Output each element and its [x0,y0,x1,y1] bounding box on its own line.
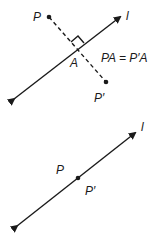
label-p-prime-bottom: P′ [85,184,96,198]
line-l-bottom [17,133,135,226]
label-l-top: l [126,9,129,23]
perpendicular-segment [49,17,106,82]
point-p-on-line [76,176,81,181]
right-angle-marker [71,36,84,43]
equation-label: PA = P′A [101,51,148,65]
point-p-top [47,15,52,20]
label-l-bottom: l [141,120,144,134]
label-p-top: P [33,10,41,24]
figure-bottom: P l P′ [17,120,144,226]
label-a: A [69,56,78,70]
label-p-bottom: P [56,163,64,177]
figure-top: P l A PA = P′A P′ [14,9,148,105]
point-p-prime-top [104,80,109,85]
label-p-prime-top: P′ [94,91,105,105]
reflection-diagram: P l A PA = P′A P′ P l P′ [0,0,160,239]
